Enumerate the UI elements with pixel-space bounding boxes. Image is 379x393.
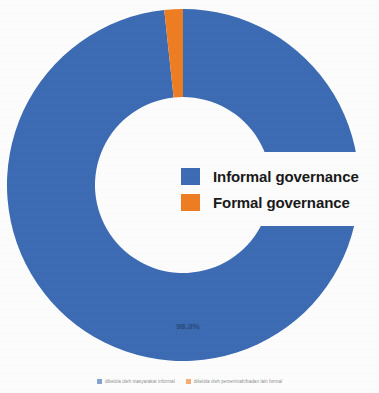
legend-label-informal-governance: Informal governance (213, 168, 359, 185)
source-legend-swatch-informal-icon (97, 379, 102, 384)
legend-item-informal-governance[interactable]: Informal governance (181, 168, 379, 185)
legend-label-formal-governance: Formal governance (213, 194, 350, 211)
slice-percentage-label: 98.3% (160, 322, 216, 331)
source-legend-swatch-formal-icon (186, 379, 191, 384)
chart-legend: Informal governance Formal governance (150, 152, 379, 226)
legend-swatch-informal-icon (181, 168, 200, 185)
source-legend-label-informal: dikelola oleh masyarakat informal (105, 379, 175, 384)
source-legend-item-formal[interactable]: dikelola oleh pemerintah/badan lain form… (186, 379, 282, 384)
source-legend-item-informal[interactable]: dikelola oleh masyarakat informal (97, 379, 175, 384)
source-legend-label-formal: dikelola oleh pemerintah/badan lain form… (194, 379, 282, 384)
source-legend: dikelola oleh masyarakat informal dikelo… (0, 374, 379, 388)
legend-item-formal-governance[interactable]: Formal governance (181, 194, 379, 211)
chart-page: 98.3% Informal governance Formal governa… (0, 0, 379, 393)
legend-swatch-formal-icon (181, 194, 200, 211)
